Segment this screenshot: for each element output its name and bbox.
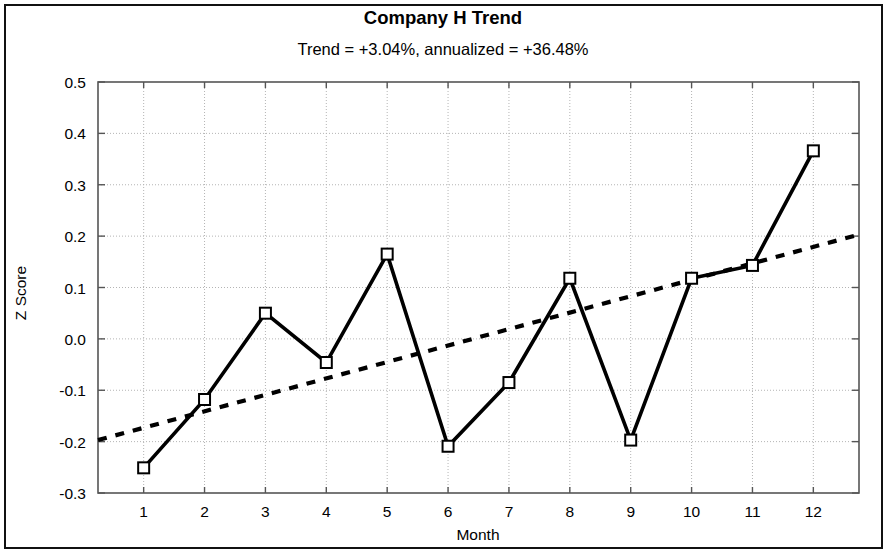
x-tick-label: 9 [626,503,635,520]
y-axis-tick-labels: -0.3-0.2-0.10.00.10.20.30.40.5 [59,74,86,502]
y-tick-label: 0.1 [64,280,86,297]
data-point-marker [199,394,210,405]
x-tick-label: 11 [744,503,760,520]
x-axis-tick-labels: 123456789101112 [139,503,822,520]
data-point-marker [747,260,758,271]
x-tick-label: 4 [322,503,331,520]
x-tick-label: 5 [383,503,392,520]
x-tick-label: 1 [139,503,148,520]
y-tick-label: 0.3 [64,177,86,194]
x-tick-label: 10 [683,503,701,520]
y-tick-label: -0.2 [59,434,86,451]
y-tick-label: 0.5 [64,74,86,91]
data-point-marker [808,145,819,156]
chart-subtitle: Trend = +3.04%, annualized = +36.48% [297,40,588,58]
data-point-marker [686,273,697,284]
x-tick-label: 12 [805,503,822,520]
y-tick-label: 0.4 [64,125,86,142]
data-point-marker [564,273,575,284]
y-tick-label: 0.0 [64,331,86,348]
x-tick-label: 7 [505,503,514,520]
y-axis-title: Z Score [12,266,29,320]
data-point-marker [321,357,332,368]
x-axis-title: Month [456,526,499,543]
y-tick-label: 0.2 [64,228,86,245]
x-tick-label: 6 [444,503,453,520]
x-tick-label: 8 [566,503,575,520]
x-tick-label: 3 [261,503,270,520]
data-point-marker [503,377,514,388]
chart-figure: 123456789101112 -0.3-0.2-0.10.00.10.20.3… [0,0,887,555]
company-h-trend-chart: 123456789101112 -0.3-0.2-0.10.00.10.20.3… [0,0,887,555]
data-point-marker [382,249,393,260]
data-point-marker [260,308,271,319]
chart-title: Company H Trend [364,7,522,28]
y-tick-label: -0.1 [59,382,86,399]
data-point-marker [138,462,149,473]
y-tick-label: -0.3 [59,485,86,502]
data-point-marker [443,441,454,452]
x-tick-label: 2 [200,503,209,520]
data-point-marker [625,435,636,446]
